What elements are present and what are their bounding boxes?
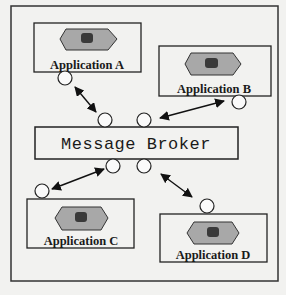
application-icon-core [81,33,93,43]
message-broker-label: Message Broker [61,135,211,154]
application-icon-core [207,227,219,237]
port-application-d [200,199,214,213]
application-c-label: Application C [44,234,119,248]
arrow-a-broker [75,87,96,112]
arrow-d-broker [161,174,192,197]
application-icon-core [75,212,87,222]
application-d-label: Application D [176,248,251,262]
port-application-b [232,95,246,109]
application-a-node: Application A [34,23,141,72]
arrow-b-broker [160,101,224,118]
message-broker-node: Message Broker [35,127,238,159]
port-broker-top-right [137,113,151,127]
application-c-node: Application C [27,199,134,248]
application-icon-core [205,58,218,68]
port-application-a [58,71,72,85]
port-broker-top-left [98,113,112,127]
arrow-c-broker [52,169,104,189]
port-application-c [35,184,49,198]
port-broker-bottom-left [106,159,120,173]
message-broker-diagram: Application A Application B Message Brok… [0,0,286,295]
application-b-node: Application B [159,46,271,96]
application-a-label: Application A [50,58,124,72]
port-broker-bottom-right [137,159,151,173]
application-d-node: Application D [160,214,267,262]
application-b-label: Application B [177,82,251,96]
